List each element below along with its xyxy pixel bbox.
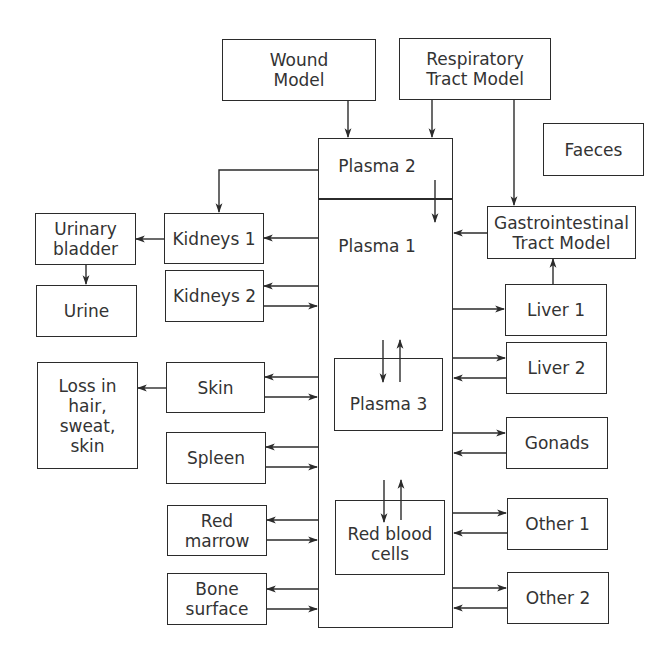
faeces-label: Faeces — [565, 140, 623, 160]
gi-tract-box: Gastrointestinal Tract Model — [487, 206, 636, 259]
gi-tract-label: Gastrointestinal Tract Model — [494, 213, 629, 253]
other-1-label: Other 1 — [525, 514, 590, 534]
gonads-label: Gonads — [525, 433, 589, 453]
faeces-box: Faeces — [543, 123, 644, 176]
liver-1-label: Liver 1 — [527, 300, 585, 320]
bone-surface-label: Bone surface — [186, 579, 249, 619]
red-marrow-box: Red marrow — [167, 505, 267, 556]
bone-surface-box: Bone surface — [167, 573, 267, 625]
urine-label: Urine — [64, 301, 109, 321]
urinary-bladder-label: Urinary bladder — [53, 219, 118, 259]
liver-1-box: Liver 1 — [505, 284, 607, 336]
plasma-2-label: Plasma 2 — [318, 156, 436, 176]
wound-model-box: Wound Model — [222, 39, 376, 101]
other-2-label: Other 2 — [526, 588, 591, 608]
plasma-3-label: Plasma 3 — [350, 394, 427, 414]
kidneys-2-label: Kidneys 2 — [173, 286, 256, 306]
red-blood-cells-box: Red blood cells — [335, 500, 445, 575]
spleen-label: Spleen — [187, 448, 245, 468]
liver-2-box: Liver 2 — [506, 342, 607, 394]
other-2-box: Other 2 — [507, 572, 609, 624]
red-marrow-label: Red marrow — [185, 511, 250, 551]
plasma-divider — [318, 198, 453, 200]
liver-2-label: Liver 2 — [528, 358, 586, 378]
urinary-bladder-box: Urinary bladder — [35, 213, 136, 265]
loss-label: Loss in hair, sweat, skin — [58, 376, 116, 456]
urine-box: Urine — [36, 285, 137, 337]
other-1-box: Other 1 — [507, 498, 608, 550]
gonads-box: Gonads — [506, 417, 608, 469]
spleen-box: Spleen — [166, 432, 266, 484]
skin-box: Skin — [166, 362, 265, 413]
red-blood-cells-label: Red blood cells — [348, 524, 433, 564]
skin-label: Skin — [197, 378, 233, 398]
kidneys-2-box: Kidneys 2 — [165, 270, 264, 322]
plasma-1-label: Plasma 1 — [318, 236, 436, 256]
respiratory-tract-label: Respiratory Tract Model — [426, 49, 524, 89]
plasma-3-box: Plasma 3 — [334, 358, 443, 431]
kidneys-1-box: Kidneys 1 — [164, 213, 264, 264]
wound-model-label: Wound Model — [270, 50, 329, 90]
kidneys-1-label: Kidneys 1 — [172, 229, 255, 249]
respiratory-tract-box: Respiratory Tract Model — [399, 38, 551, 100]
loss-box: Loss in hair, sweat, skin — [37, 362, 138, 469]
